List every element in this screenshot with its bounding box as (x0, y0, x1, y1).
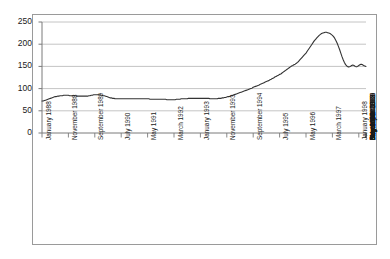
chart-figure: 050100150200250 January 1988November 198… (0, 0, 390, 259)
x-axis-labels: January 1988November 1988September 1989J… (0, 0, 390, 259)
x-tick-label: January 1988 (45, 101, 52, 140)
x-tick-label: May 1996 (309, 112, 316, 140)
x-tick-label: March 1992 (177, 106, 184, 140)
x-tick-label: May 1991 (150, 112, 157, 140)
x-tick-label: September 1994 (256, 93, 263, 140)
x-tick-label: July 2010 (369, 113, 376, 140)
x-tick-label: July 1990 (124, 113, 131, 140)
x-tick-label: September 1989 (97, 93, 104, 140)
x-tick-label: November 1993 (229, 95, 236, 140)
x-tick-label: July 1995 (282, 113, 289, 140)
x-tick-label: January 1998 (361, 101, 368, 140)
x-tick-label: January 1993 (203, 101, 210, 140)
x-tick-label: March 1997 (335, 106, 342, 140)
x-tick-label: November 1988 (71, 95, 78, 140)
